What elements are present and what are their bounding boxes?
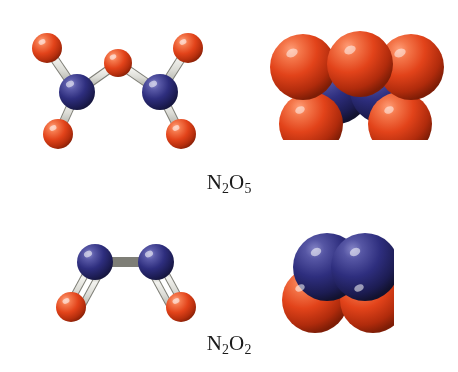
formula-subscript-2b: 2 [244,342,251,357]
atom-nitrogen [331,233,399,301]
formula-subscript-2: 2 [222,342,229,357]
molecular-structure-figure: N2O5 [0,0,458,372]
formula-element-n: N [207,331,222,355]
formula-element-o: O [229,331,244,355]
n2o2-space-filling-svg [0,0,458,372]
formula-label-n2o2: N2O2 [0,333,458,357]
space-filling-sphere-group [282,233,406,333]
